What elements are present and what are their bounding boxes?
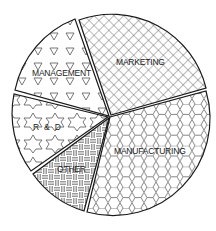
label-marketing: MARKETING [116, 57, 165, 67]
label-management: MANAGEMENT [32, 68, 91, 78]
pie-chart: MARKETING MANAGEMENT R & D OTHER MANUFAC… [0, 0, 216, 231]
label-other: OTHER [57, 164, 86, 174]
label-rd: R & D [33, 122, 61, 132]
label-manufacturing: MANUFACTURING [114, 146, 186, 156]
